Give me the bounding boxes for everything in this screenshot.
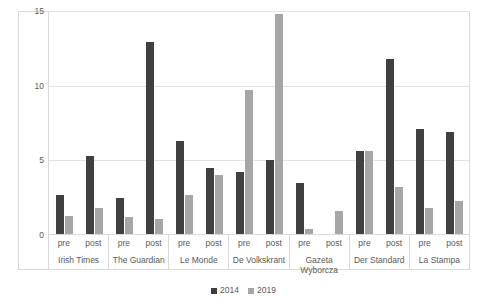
bar-2014 <box>146 42 154 235</box>
category-sublabels: prepost <box>229 235 288 252</box>
category-label: La Stampa <box>410 252 469 270</box>
category-group: prepostDer Standard <box>349 235 409 270</box>
legend-item: 2014 <box>211 286 239 295</box>
category-group: prepostIrish Times <box>48 235 108 270</box>
category-label: Irish Times <box>49 252 108 270</box>
bar-2019 <box>95 208 103 235</box>
bar-group <box>350 11 410 235</box>
bar-group <box>109 11 169 235</box>
legend-label: 2014 <box>220 286 239 295</box>
bar-chart: 051015 prepostIrish TimesprepostThe Guar… <box>0 0 487 308</box>
bar-2014 <box>176 141 184 235</box>
category-sublabel: post <box>199 235 229 252</box>
y-axis-tick-label: 15 <box>35 7 44 16</box>
bar-subgroup <box>260 11 290 235</box>
bar-2014 <box>236 172 244 235</box>
category-group: prepostDe Volkskrant <box>228 235 288 270</box>
category-sublabel: pre <box>109 235 139 252</box>
bar-2019 <box>245 90 253 235</box>
y-axis-tick-label: 5 <box>39 156 44 165</box>
category-sublabel: pre <box>229 235 259 252</box>
bar-2019 <box>215 175 223 235</box>
bar-2014 <box>296 183 304 235</box>
legend-swatch-icon <box>211 288 217 294</box>
category-sublabel: pre <box>49 235 79 252</box>
category-label: The Guardian <box>109 252 168 270</box>
bar-subgroup <box>320 11 350 235</box>
category-sublabel: post <box>259 235 289 252</box>
category-group: prepostThe Guardian <box>108 235 168 270</box>
legend-label: 2019 <box>257 286 276 295</box>
bar-subgroup <box>290 11 320 235</box>
bar-2014 <box>116 198 124 235</box>
category-sublabel: pre <box>290 235 320 252</box>
legend-swatch-icon <box>248 288 254 294</box>
bar-group <box>49 11 109 235</box>
bar-group <box>290 11 350 235</box>
bar-2014 <box>386 59 394 235</box>
category-sublabels: prepost <box>169 235 228 252</box>
category-label: Gazeta Wyborcza <box>290 252 349 275</box>
bar-2014 <box>86 156 94 235</box>
bar-2019 <box>275 14 283 235</box>
bar-2019 <box>155 219 163 235</box>
bar-subgroup <box>79 11 109 235</box>
category-sublabel: post <box>439 235 469 252</box>
bars-layer <box>49 11 470 235</box>
category-sublabels: prepost <box>410 235 469 252</box>
category-sublabels: prepost <box>290 235 349 252</box>
bar-subgroup <box>380 11 410 235</box>
category-sublabel: pre <box>169 235 199 252</box>
bar-2014 <box>416 129 424 235</box>
bar-subgroup <box>109 11 139 235</box>
category-sublabel: post <box>79 235 109 252</box>
bar-subgroup <box>350 11 380 235</box>
legend-item: 2019 <box>248 286 276 295</box>
bar-subgroup <box>139 11 169 235</box>
bar-subgroup <box>49 11 79 235</box>
category-sublabel: post <box>319 235 349 252</box>
chart-legend: 20142019 <box>0 286 487 295</box>
bar-subgroup <box>410 11 440 235</box>
bar-2014 <box>356 151 364 235</box>
category-sublabel: pre <box>410 235 440 252</box>
bar-group <box>410 11 470 235</box>
bar-2019 <box>185 195 193 235</box>
bar-subgroup <box>169 11 199 235</box>
bar-2014 <box>56 195 64 235</box>
y-axis-tick-label: 0 <box>39 231 44 240</box>
bar-2014 <box>266 160 274 235</box>
category-sublabels: prepost <box>49 235 108 252</box>
category-group: prepostLe Monde <box>168 235 228 270</box>
bar-group <box>169 11 229 235</box>
bar-2019 <box>125 217 133 235</box>
bar-2014 <box>206 168 214 235</box>
category-sublabel: post <box>139 235 169 252</box>
category-sublabels: prepost <box>350 235 409 252</box>
plot-area <box>48 11 470 235</box>
bar-2019 <box>335 211 343 235</box>
category-sublabels: prepost <box>109 235 168 252</box>
category-label: Der Standard <box>350 252 409 270</box>
category-group: prepostLa Stampa <box>409 235 470 270</box>
bar-2014 <box>446 132 454 235</box>
category-sublabel: pre <box>350 235 380 252</box>
bar-subgroup <box>440 11 470 235</box>
bar-2019 <box>365 151 373 235</box>
bar-2019 <box>425 208 433 235</box>
bar-subgroup <box>229 11 259 235</box>
bar-2019 <box>65 216 73 235</box>
category-axis: prepostIrish TimesprepostThe Guardianpre… <box>48 235 470 270</box>
category-sublabel: post <box>379 235 409 252</box>
bar-group <box>229 11 289 235</box>
y-axis: 051015 <box>18 11 48 270</box>
bar-2019 <box>395 187 403 235</box>
y-axis-tick-label: 10 <box>35 82 44 91</box>
category-label: De Volkskrant <box>229 252 288 270</box>
category-label: Le Monde <box>169 252 228 270</box>
bar-2019 <box>455 201 463 235</box>
category-group: prepostGazeta Wyborcza <box>289 235 349 270</box>
bar-subgroup <box>199 11 229 235</box>
